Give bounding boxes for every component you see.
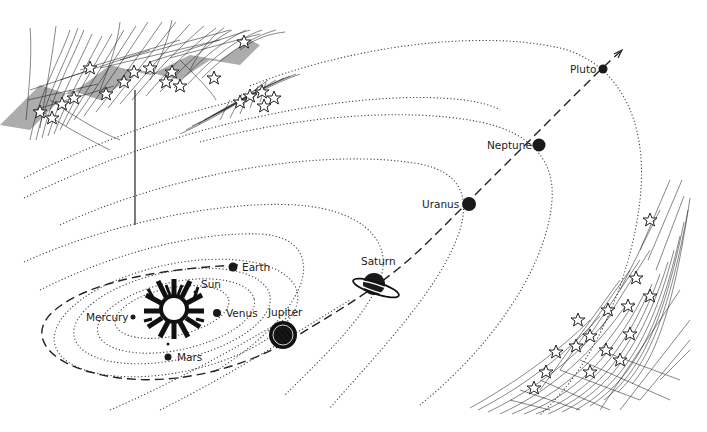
- star-field-upper-left: [0, 20, 285, 225]
- solar-system-diagram: [0, 0, 707, 432]
- label-earth: Earth: [242, 262, 270, 273]
- planet-venus: [213, 309, 221, 317]
- trajectory-path: [42, 50, 622, 380]
- label-mercury: Mercury: [86, 312, 129, 323]
- star-field-lower-right: [470, 180, 690, 414]
- label-uranus: Uranus: [422, 199, 459, 210]
- label-sun: Sun: [201, 279, 221, 290]
- planet-neptune: [533, 139, 546, 152]
- label-neptune: Neptune: [487, 140, 532, 151]
- planet-mercury: [131, 315, 136, 320]
- label-pluto: Pluto: [570, 64, 596, 75]
- planet-pluto: [599, 65, 608, 74]
- planet-mars: [165, 354, 172, 361]
- label-mars: Mars: [177, 352, 202, 363]
- label-jupiter: Jupiter: [268, 307, 302, 318]
- planet-earth: [229, 263, 238, 272]
- planet-saturn: [351, 273, 400, 301]
- planet-uranus: [462, 197, 476, 211]
- outer-orbits: [24, 40, 642, 415]
- label-venus: Venus: [226, 308, 258, 319]
- star-field-small-upper-middle: [180, 74, 300, 134]
- planet-jupiter: [269, 321, 297, 349]
- label-saturn: Saturn: [361, 256, 396, 267]
